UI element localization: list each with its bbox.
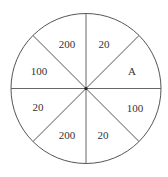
sector-label-left-lower: 20: [33, 101, 45, 113]
center-point: [84, 87, 87, 90]
sector-label-left-upper: 100: [31, 65, 48, 77]
sector-label-top-left-upper: 200: [59, 38, 76, 50]
sector-label-right-lower: 100: [127, 102, 144, 114]
sector-label-bottom-left: 200: [59, 129, 76, 141]
sector-circle-diagram: 200 20 A 100 20 200 20 100: [0, 0, 168, 177]
sector-label-right-upper: A: [128, 65, 136, 77]
sector-label-top-right-upper: 20: [99, 38, 111, 50]
sector-label-bottom-right: 20: [98, 129, 110, 141]
